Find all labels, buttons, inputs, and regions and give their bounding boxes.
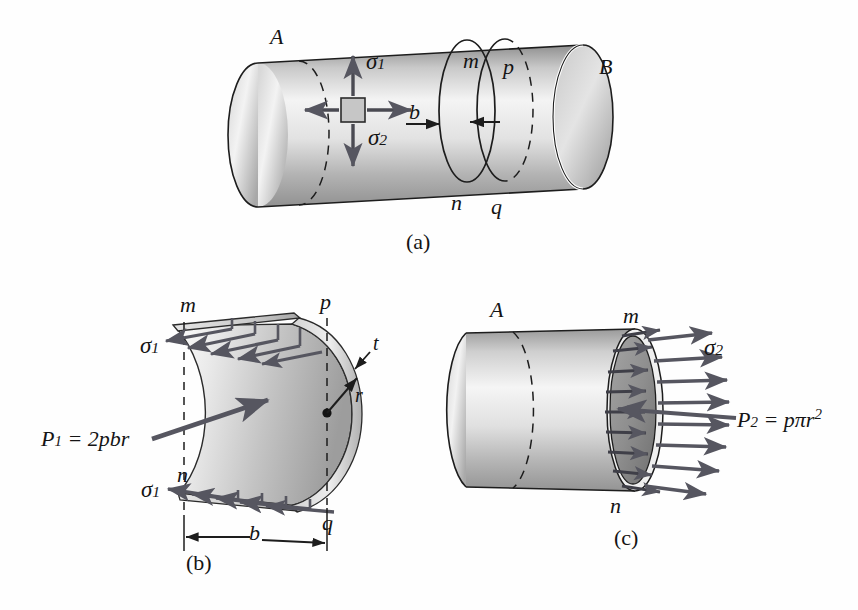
panel-c-graphics bbox=[0, 0, 858, 610]
figure-canvas: A B m n p q b σ1 σ2 (a) bbox=[0, 0, 858, 610]
end-label-A-c: A bbox=[490, 299, 503, 321]
force-equation-P2: P2 = pπr2 bbox=[737, 407, 822, 431]
sigma2-label-c: σ2 bbox=[704, 336, 723, 359]
section-label-m-c: m bbox=[623, 305, 639, 327]
panel-caption-c: (c) bbox=[614, 527, 638, 549]
section-label-n-c: n bbox=[610, 495, 621, 517]
